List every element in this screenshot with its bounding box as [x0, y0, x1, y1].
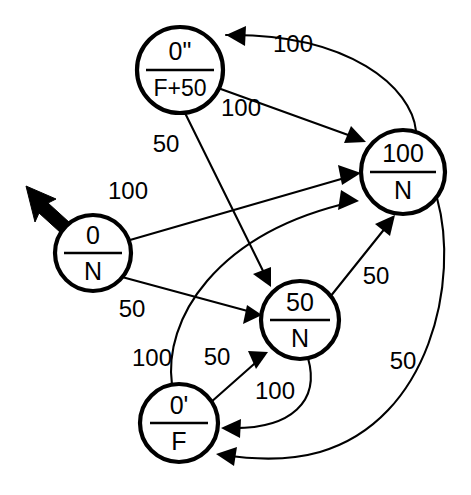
state-node-numerator: 100: [382, 139, 424, 167]
state-node-numerator: 0': [170, 391, 189, 419]
state-diagram-canvas: 0" F+50 100 N 0 N 50 N: [0, 0, 471, 495]
state-node-0pr[interactable]: 0' F: [140, 384, 218, 462]
edge-label-e7: 50: [204, 343, 231, 370]
edge-label-e3: 50: [153, 130, 180, 157]
arrow-head: [338, 165, 361, 185]
arrow-head: [226, 26, 246, 46]
state-node-denominator: N: [84, 257, 102, 285]
state-node-denominator: F+50: [153, 75, 206, 101]
edge-label-e9: 50: [363, 262, 390, 289]
edge-label-e10: 50: [390, 347, 417, 374]
state-node-100[interactable]: 100 N: [361, 130, 445, 214]
arrow-head: [216, 447, 237, 466]
edge-label-e5: 50: [119, 295, 146, 322]
state-node-numerator: 0: [86, 221, 100, 249]
edge-label-e4: 100: [108, 177, 148, 204]
state-node-50[interactable]: 50 N: [261, 281, 339, 359]
state-node-0dq[interactable]: 0" F+50: [137, 27, 223, 113]
edge-label-e8: 100: [255, 377, 295, 404]
edge-label-e6: 100: [132, 344, 172, 371]
state-node-denominator: N: [394, 176, 412, 204]
arrow-head: [221, 419, 241, 438]
arrow-head: [338, 190, 359, 210]
edge-n0-to-n100: [130, 165, 361, 240]
state-node-0[interactable]: 0 N: [55, 215, 131, 291]
state-node-numerator: 0": [169, 37, 192, 65]
state-node-denominator: N: [291, 324, 309, 352]
state-node-denominator: F: [171, 427, 186, 455]
edge-path: [185, 113, 268, 281]
edge-label-e1: 100: [273, 30, 313, 57]
arrow-head: [375, 215, 395, 236]
state-node-numerator: 50: [286, 288, 314, 316]
edge-label-e2: 100: [221, 94, 261, 121]
state-diagram-svg: 0" F+50 100 N 0 N 50 N: [0, 0, 471, 495]
